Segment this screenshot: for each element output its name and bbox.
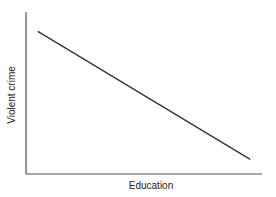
x-axis-label: Education — [129, 180, 173, 191]
y-axis-label: Violent crime — [6, 66, 17, 124]
trend-line — [38, 31, 250, 159]
chart: Education Violent crime — [0, 0, 276, 197]
